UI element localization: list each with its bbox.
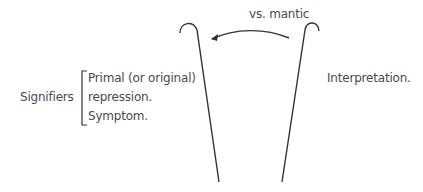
bracket-item: Primal (or original) (88, 70, 196, 87)
bracket (82, 71, 87, 125)
right-hook-line (282, 23, 319, 182)
bracket-item: repression. (88, 89, 152, 106)
curved-arrow (212, 31, 289, 39)
interpretation-label: Interpretation. (327, 70, 411, 87)
arrow-label: vs. mantic (249, 6, 309, 23)
left-hook-line (180, 24, 219, 182)
signifiers-label: Signifiers (20, 89, 74, 106)
bracket-item: Symptom. (88, 108, 148, 125)
arrowhead-icon (211, 34, 218, 41)
